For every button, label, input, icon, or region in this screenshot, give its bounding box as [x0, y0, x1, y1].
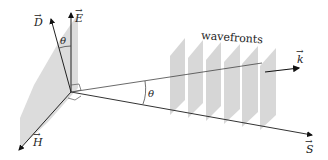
label-h-arrow: →: [33, 129, 41, 139]
diagram-canvas: D → E → H → S → k → θ θ wavefronts: [0, 0, 328, 160]
label-d-arrow: →: [34, 10, 42, 20]
wavefront-2: [188, 40, 203, 118]
diagram: D → E → H → S → k → θ θ wavefronts: [0, 0, 328, 160]
wavefronts-group: [170, 38, 276, 130]
dh-plane: [20, 14, 78, 148]
label-theta-top: θ: [60, 35, 66, 46]
label-theta-mid: θ: [148, 88, 154, 99]
wavefront-6: [260, 48, 276, 130]
theta-arc-mid: [143, 81, 146, 104]
label-k-arrow: →: [296, 46, 304, 56]
wavefront-4: [224, 44, 240, 124]
label-s-arrow: →: [305, 136, 313, 146]
label-e-arrow: →: [75, 5, 83, 15]
wavefront-3: [206, 42, 221, 121]
wavefront-5: [242, 46, 258, 127]
label-wavefronts: wavefronts: [201, 29, 264, 46]
